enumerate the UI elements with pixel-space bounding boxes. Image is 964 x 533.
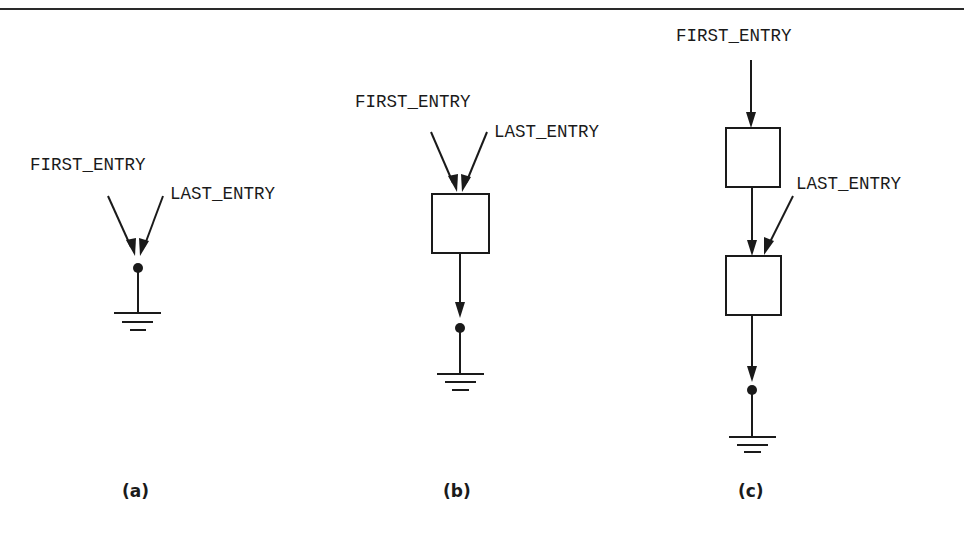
null-terminator-icon [729,385,776,452]
null-terminator-icon [437,323,484,390]
last-entry-arrow [461,132,487,192]
null-terminator-icon [114,263,161,330]
panel-a: FIRST_ENTRY LAST_ENTRY (a) [30,155,276,501]
first-entry-arrow [431,132,458,192]
last-entry-arrow [139,196,163,256]
last-entry-label: LAST_ENTRY [494,122,600,142]
last-entry-arrow [764,196,793,255]
list-node [432,194,489,253]
first-entry-label: FIRST_ENTRY [30,155,146,175]
first-entry-label: FIRST_ENTRY [676,26,792,46]
panel-caption: (b) [443,481,471,501]
last-entry-label: LAST_ENTRY [170,184,276,204]
panel-b: FIRST_ENTRY LAST_ENTRY (b) [355,92,600,501]
next-pointer-arrow [747,315,757,382]
first-entry-arrow [746,60,756,128]
panel-caption: (c) [738,481,764,501]
list-node-1 [726,128,780,187]
last-entry-label: LAST_ENTRY [796,174,902,194]
panel-caption: (a) [122,481,149,501]
first-entry-arrow [108,196,136,256]
list-node-2 [726,256,781,315]
next-pointer-arrow [455,253,465,318]
next-pointer-arrow [747,187,757,256]
first-entry-label: FIRST_ENTRY [355,92,471,112]
panel-c: FIRST_ENTRY LAST_ENTRY (c) [676,26,902,501]
linked-list-diagram: FIRST_ENTRY LAST_ENTRY (a) FIRST_ENTRY L… [0,0,964,533]
